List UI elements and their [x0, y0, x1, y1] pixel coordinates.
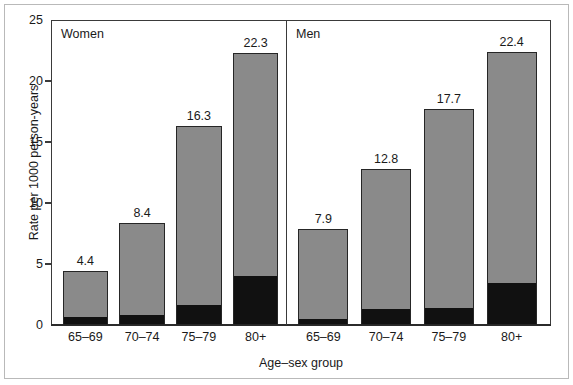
bar-men-80+ [487, 52, 537, 325]
bar-lower-segment [299, 319, 347, 324]
bar-women-75–79 [176, 126, 221, 325]
bars-layer [51, 20, 551, 325]
bar-value-label: 16.3 [166, 110, 231, 123]
y-tick-label: 5 [3, 258, 43, 271]
bar-value-label: 4.4 [53, 255, 118, 268]
y-tick-label: 15 [3, 136, 43, 149]
bar-lower-segment [362, 309, 410, 324]
bar-women-80+ [233, 53, 278, 325]
bar-value-label: 17.7 [414, 93, 484, 106]
bar-value-label: 12.8 [351, 153, 421, 166]
bar-lower-segment [120, 315, 163, 324]
bar-men-65–69 [298, 229, 348, 325]
y-tick-mark [45, 141, 51, 142]
y-tick-mark [45, 80, 51, 81]
y-tick-mark [45, 263, 51, 264]
bar-men-70–74 [361, 169, 411, 325]
y-tick-label: 0 [3, 319, 43, 332]
bar-lower-segment [234, 276, 277, 324]
bar-value-label: 8.4 [109, 207, 174, 220]
x-tick-label: 80+ [221, 331, 290, 344]
x-axis-title: Age–sex group [51, 356, 551, 370]
y-axis-ticks: 0510152025 [0, 0, 43, 385]
figure: Rate per 1000 person-years 0510152025 Wo… [0, 0, 573, 385]
y-tick-label: 20 [3, 75, 43, 88]
bar-value-label: 7.9 [288, 213, 358, 226]
bar-value-label: 22.4 [477, 36, 547, 49]
bar-lower-segment [488, 283, 536, 324]
bar-lower-segment [64, 317, 107, 324]
y-tick-mark [45, 202, 51, 203]
y-tick-label: 10 [3, 197, 43, 210]
x-tick-label: 80+ [475, 331, 549, 344]
bar-women-65–69 [63, 271, 108, 325]
bar-lower-segment [425, 308, 473, 324]
y-tick-label: 25 [3, 14, 43, 27]
bar-value-label: 22.3 [223, 37, 288, 50]
bar-men-75–79 [424, 109, 474, 325]
bar-lower-segment [177, 305, 220, 324]
bar-women-70–74 [119, 223, 164, 325]
